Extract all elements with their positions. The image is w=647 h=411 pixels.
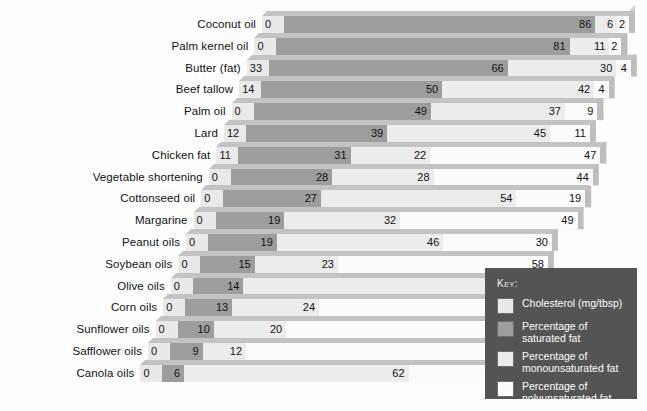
bar-segment-mono: 37 <box>431 103 565 120</box>
bar-segment-sat: 19 <box>216 212 285 229</box>
bar-segment-value: 54 <box>500 190 512 207</box>
bar-segment-mono: 28 <box>332 169 433 186</box>
bar-segment-value: 47 <box>584 147 596 164</box>
stacked-bar: 0194630 <box>186 234 552 251</box>
bar-segment-sat: 14 <box>193 278 244 295</box>
bar-segment-mono: 32 <box>284 212 400 229</box>
bar-segment-value: 9 <box>587 103 593 120</box>
fat-composition-chart: Coconut oil08662Palm kernel oil081112But… <box>0 0 647 411</box>
bar-segment-value: 4 <box>599 81 605 98</box>
legend-item-label: Percentage ofsaturated fat <box>522 321 587 344</box>
bar-segment-mono: 11 <box>570 38 610 55</box>
bar-segment-value: 0 <box>197 212 203 229</box>
bar-segment-mono: 20 <box>214 321 286 338</box>
bar-segment-sat: 49 <box>254 103 431 120</box>
legend-item: Cholesterol (mg/tbsp) <box>497 298 627 314</box>
bar-row-label: Canola oils <box>76 365 140 382</box>
bar-segment-value: 11 <box>594 38 605 55</box>
bar-segment-poly: 11 <box>550 125 590 142</box>
bar-segment-poly: 2 <box>617 16 629 33</box>
bar-row-label: Vegetable shortening <box>93 169 209 186</box>
bar-segment-value: 14 <box>227 278 239 295</box>
bar-segment-value: 44 <box>577 169 589 186</box>
bar-segment-value: 62 <box>392 365 404 382</box>
bar-segment-chol: 0 <box>262 16 284 33</box>
stacked-bar: 049379 <box>232 103 598 120</box>
bar-segment-value: 0 <box>143 365 149 382</box>
bar-top-bevel <box>186 229 557 234</box>
legend-item: Percentage ofsaturated fat <box>497 321 627 344</box>
bar-segment-mono: 42 <box>442 81 594 98</box>
bar-segment-value: 0 <box>189 234 195 251</box>
bar-segment-sat: 39 <box>246 125 387 142</box>
bar-segment-value: 37 <box>549 103 561 120</box>
stacked-bar: 081112 <box>254 38 621 55</box>
bar-segment-chol: 0 <box>232 103 254 120</box>
bar-segment-value: 30 <box>600 60 612 77</box>
bar-segment-value: 28 <box>316 169 328 186</box>
bar-segment-poly: 19 <box>516 190 585 207</box>
stacked-bar: 08662 <box>262 16 629 33</box>
bar-top-bevel <box>140 360 529 365</box>
stacked-bar: 3366304 <box>247 60 631 77</box>
bar-segment-value: 27 <box>305 190 317 207</box>
bar-segment-sat: 6 <box>162 365 184 382</box>
bar-segment-value: 31 <box>334 147 346 164</box>
bar-top-bevel <box>254 33 626 38</box>
bar-segment-poly: 49 <box>400 212 577 229</box>
bar-segment-chol: 0 <box>163 299 185 316</box>
bar-segment-poly: 44 <box>434 169 593 186</box>
bar-segment-mono: 22 <box>351 147 431 164</box>
bar-segment-value: 39 <box>371 125 383 142</box>
legend-title: Key: <box>497 278 627 289</box>
legend-swatch-icon <box>497 298 514 314</box>
legend-swatch-icon <box>497 351 514 367</box>
bar-segment-value: 86 <box>579 16 591 33</box>
bar-top-bevel <box>209 164 598 169</box>
bar-segment-sat: 31 <box>238 147 350 164</box>
bar-row-label: Coconut oil <box>197 16 262 33</box>
bar-segment-chol: 0 <box>171 278 193 295</box>
bar-segment-mono: 12 <box>203 343 246 360</box>
bar-segment-value: 0 <box>235 103 241 120</box>
bar-segment-value: 0 <box>166 299 172 316</box>
bar-row-label: Beef tallow <box>176 81 239 98</box>
bar-segment-value: 22 <box>414 147 426 164</box>
bar-row-label: Olive oils <box>117 278 171 295</box>
stacked-bar: 014729 <box>171 278 537 295</box>
bar-segment-poly: 30 <box>443 234 552 251</box>
bar-segment-sat: 86 <box>284 16 595 33</box>
bar-segment-value: 2 <box>611 38 617 55</box>
bar-row-label: Palm oil <box>184 103 232 120</box>
bar-row-label: Lard <box>195 125 224 142</box>
bar-segment-value: 6 <box>607 16 613 33</box>
bar-top-bevel <box>262 11 634 16</box>
bar-segment-value: 0 <box>204 190 210 207</box>
stacked-bar: 0282844 <box>209 169 593 186</box>
stacked-bar: 11312247 <box>216 147 600 164</box>
bar-segment-chol: 0 <box>201 190 223 207</box>
bar-top-bevel <box>232 98 603 103</box>
bar-segment-sat: 50 <box>261 81 442 98</box>
bar-segment-chol: 14 <box>239 81 261 98</box>
bar-segment-chol: 11 <box>216 147 238 164</box>
bar-top-bevel <box>148 338 519 343</box>
bar-top-bevel <box>216 142 605 147</box>
bar-segment-value: 32 <box>384 212 396 229</box>
bar-segment-mono: 24 <box>232 299 319 316</box>
stacked-bar: 091274 <box>148 343 514 360</box>
bar-segment-chol: 0 <box>194 212 216 229</box>
legend-swatch-icon <box>497 381 514 397</box>
bar-segment-sat: 27 <box>223 190 321 207</box>
bar-row-label: Chicken fat <box>152 147 217 164</box>
bar-segment-value: 0 <box>159 321 165 338</box>
bar-segment-poly: 74 <box>246 343 514 360</box>
bar-segment-value: 9 <box>192 343 198 360</box>
stacked-bar: 0193249 <box>194 212 578 229</box>
bar-segment-sat: 28 <box>231 169 332 186</box>
bar-row-label: Butter (fat) <box>185 60 247 77</box>
bar-row-label: Palm kernel oil <box>171 38 254 55</box>
bar-top-bevel <box>239 76 614 81</box>
bar-segment-mono: 62 <box>184 365 408 382</box>
bar-top-bevel <box>156 316 531 321</box>
